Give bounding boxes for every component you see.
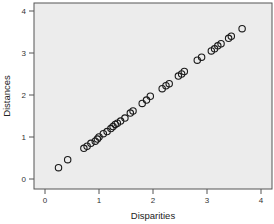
y-tick-label: 1 — [22, 133, 27, 142]
scatter-chart: 01234 01234 Disparities Distances — [0, 0, 274, 224]
y-tick-label: 4 — [22, 7, 27, 16]
x-axis-ticks: 01234 — [43, 189, 264, 205]
x-axis-title: Disparities — [131, 210, 176, 221]
x-tick-label: 0 — [43, 196, 48, 205]
x-tick-label: 2 — [151, 196, 156, 205]
y-axis-title: Distances — [1, 75, 12, 117]
x-tick-label: 1 — [97, 196, 102, 205]
y-tick-label: 2 — [22, 91, 27, 100]
y-tick-label: 0 — [22, 175, 27, 184]
x-tick-label: 3 — [205, 196, 210, 205]
y-axis-ticks: 01234 — [22, 7, 34, 184]
x-tick-label: 4 — [259, 196, 264, 205]
y-tick-label: 3 — [22, 49, 27, 58]
